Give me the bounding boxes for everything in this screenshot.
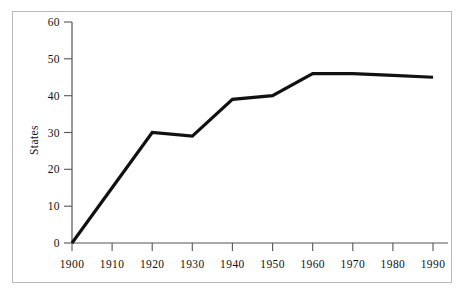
y-axis-tick-labels: 60 50 40 30 20 10 0	[48, 16, 60, 249]
data-series-line	[72, 74, 433, 243]
y-tick-label-60: 60	[48, 16, 60, 28]
x-tick-label-1990: 1990	[421, 258, 446, 270]
figure-root: 60 50 40 30 20 10 0	[0, 0, 464, 295]
y-tick-label-10: 10	[48, 200, 60, 212]
y-axis-title: States	[28, 125, 40, 155]
y-tick-label-30: 30	[48, 127, 60, 139]
x-tick-label-1970: 1970	[340, 258, 365, 270]
y-tick-label-0: 0	[54, 237, 60, 249]
chart-area: 60 50 40 30 20 10 0	[0, 0, 464, 295]
x-tick-label-1950: 1950	[260, 258, 285, 270]
x-tick-label-1900: 1900	[60, 258, 85, 270]
x-tick-label-1920: 1920	[140, 258, 165, 270]
x-axis-tick-labels: 1900 1910 1920 1930 1940 1950 1960 1970 …	[60, 258, 446, 270]
x-tick-label-1960: 1960	[300, 258, 325, 270]
x-tick-label-1930: 1930	[180, 258, 205, 270]
y-tick-label-40: 40	[48, 90, 60, 102]
line-chart: 60 50 40 30 20 10 0	[0, 0, 464, 295]
x-tick-label-1980: 1980	[381, 258, 406, 270]
x-tick-label-1940: 1940	[220, 258, 245, 270]
y-axis-ticks	[64, 22, 72, 243]
y-tick-label-50: 50	[48, 53, 60, 65]
x-axis-ticks	[72, 243, 433, 251]
x-tick-label-1910: 1910	[100, 258, 125, 270]
y-tick-label-20: 20	[48, 163, 60, 175]
